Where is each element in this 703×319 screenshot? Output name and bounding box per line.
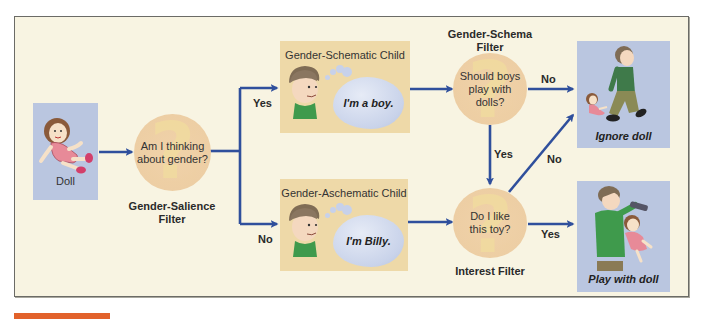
aschematic-child-title: Gender-Aschematic Child <box>280 187 408 199</box>
salience-question-line-1: Am I thinking <box>137 140 208 153</box>
edge-label-no-schema: No <box>541 73 556 85</box>
thought-bubble-dot <box>342 205 352 215</box>
thought-bubble-dot <box>342 67 352 77</box>
edge-label-yes-salience: Yes <box>253 97 272 109</box>
thought-bubble-dot <box>325 75 330 80</box>
edge-label-no-salience: No <box>258 233 273 245</box>
gender-schema-filter-caption: Gender-Schema Filter <box>440 28 540 54</box>
boy-face-icon <box>285 63 325 119</box>
doll-label: Doll <box>33 175 98 187</box>
interest-question-line-2: this toy? <box>470 223 511 236</box>
boy-face-icon <box>285 201 325 257</box>
thought-cloud: I'm Billy. <box>333 215 404 267</box>
play-with-doll-label: Play with doll <box>577 273 670 285</box>
thought-bubble-dot <box>325 213 330 218</box>
play-with-doll-box: Play with doll <box>577 181 670 292</box>
edge-label-yes-interest: Yes <box>541 228 560 240</box>
ignore-doll-label: Ignore doll <box>577 130 670 142</box>
gender-aschematic-child-box: Gender-Aschematic Child I'm Billy. <box>280 179 408 271</box>
boy-brushing-doll-hair-icon <box>577 181 670 273</box>
thought-cloud: I'm a boy. <box>333 77 404 129</box>
doll-box: Doll <box>33 103 98 200</box>
schema-question-line-1: Should boys <box>453 70 527 83</box>
salience-question-line-2: about gender? <box>137 153 208 166</box>
gender-salience-filter-circle: ? Am I thinking about gender? <box>134 114 211 191</box>
accent-bar <box>14 313 110 319</box>
schematic-thought-text: I'm a boy. <box>344 97 394 109</box>
boy-walking-away-icon <box>577 41 670 129</box>
gender-schema-filter-circle: ? Should boys play with dolls? <box>453 53 527 125</box>
interest-question-line-1: Do I like <box>470 210 511 223</box>
ignore-doll-box: Ignore doll <box>577 41 670 148</box>
thought-bubble-dot <box>330 69 336 75</box>
schematic-child-title: Gender-Schematic Child <box>280 49 410 61</box>
interest-filter-circle: ? Do I like this toy? <box>453 188 527 258</box>
schema-question-line-2: play with dolls? <box>453 83 527 109</box>
aschematic-thought-text: I'm Billy. <box>346 235 390 247</box>
edge-label-yes-schema: Yes <box>494 148 513 160</box>
doll-icon <box>33 109 98 179</box>
interest-filter-caption: Interest Filter <box>445 265 535 278</box>
gender-schematic-child-box: Gender-Schematic Child I'm a boy. <box>280 41 410 133</box>
gender-salience-filter-caption: Gender-Salience Filter <box>120 200 224 226</box>
edge-label-no-interest: No <box>547 153 562 165</box>
thought-bubble-dot <box>330 207 336 213</box>
